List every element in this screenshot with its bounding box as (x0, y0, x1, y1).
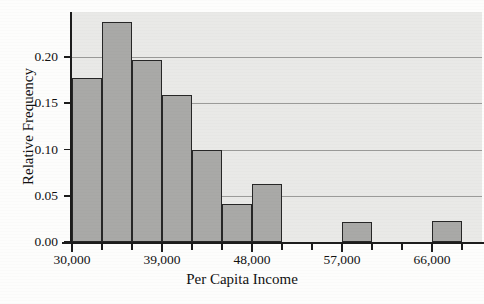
y-axis-tick (64, 102, 72, 104)
x-axis-line (62, 242, 484, 244)
x-axis-major-tick (251, 243, 253, 252)
histogram-bar (132, 60, 162, 242)
x-axis-tick (131, 243, 133, 250)
y-axis-tick (64, 195, 72, 197)
histogram-figure: Relative Frequency Per Capita Income 0.0… (0, 0, 484, 304)
x-axis-tick (401, 243, 403, 250)
histogram-bar (162, 95, 192, 242)
x-axis-tick (281, 243, 283, 250)
y-axis-tick (64, 56, 72, 58)
x-axis-major-tick (431, 243, 433, 252)
histogram-bar (222, 204, 252, 242)
x-axis-title: Per Capita Income (72, 271, 412, 288)
histogram-bar (72, 78, 102, 242)
y-axis-tick-label: 0.00 (12, 235, 58, 249)
x-axis-major-tick (161, 243, 163, 252)
y-axis-tick-label: 0.20 (12, 50, 58, 64)
x-axis-major-tick (71, 243, 73, 252)
x-axis-tick (371, 243, 373, 250)
x-axis-tick (221, 243, 223, 250)
y-axis-tick (64, 149, 72, 151)
x-axis-tick-label: 48,000 (212, 252, 292, 267)
x-axis-tick-label: 66,000 (392, 252, 472, 267)
x-axis-tick (101, 243, 103, 250)
y-axis-tick-label: 0.10 (12, 143, 58, 157)
gridline (72, 57, 482, 58)
x-axis-major-tick (341, 243, 343, 252)
chart-title (60, 0, 390, 2)
x-axis-tick (311, 243, 313, 250)
x-axis-tick-label: 30,000 (32, 252, 112, 267)
histogram-bar (102, 22, 132, 242)
x-axis-tick (461, 243, 463, 250)
histogram-bar (342, 222, 372, 242)
y-axis-tick-label: 0.05 (12, 189, 58, 203)
x-axis-tick-label: 39,000 (122, 252, 202, 267)
x-axis-tick (191, 243, 193, 250)
histogram-bar (192, 150, 222, 243)
y-axis-tick-label: 0.15 (12, 96, 58, 110)
histogram-bar (432, 221, 462, 242)
x-axis-tick-label: 57,000 (302, 252, 382, 267)
histogram-bar (252, 184, 282, 242)
